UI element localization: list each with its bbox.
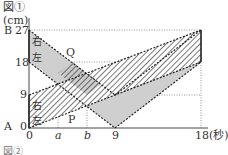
y-tick-18: 18 [15, 57, 29, 68]
x-tick-9: 9 [112, 130, 119, 141]
x-tick-a: a [55, 130, 62, 141]
x-tick-b: b [84, 130, 91, 141]
point-q-label: Q [66, 47, 75, 58]
band-upper-left-label: 左 [32, 53, 42, 63]
point-p-label: P [68, 114, 75, 125]
x-unit-label: 18(秒) [195, 130, 228, 141]
y-tick-27: 27 [15, 25, 29, 36]
figure-title: 図① [3, 2, 25, 13]
band-lower-right-label: 右 [32, 101, 42, 111]
point-a-label: A [4, 121, 12, 132]
band-upper-right-label: 右 [32, 37, 42, 47]
y-tick-9: 9 [20, 89, 27, 100]
x-tick-0: 0 [26, 130, 33, 141]
point-b-label: B [4, 25, 12, 36]
band-lower-left-label: 左 [32, 116, 42, 126]
next-figure-title: 図② [3, 147, 23, 155]
